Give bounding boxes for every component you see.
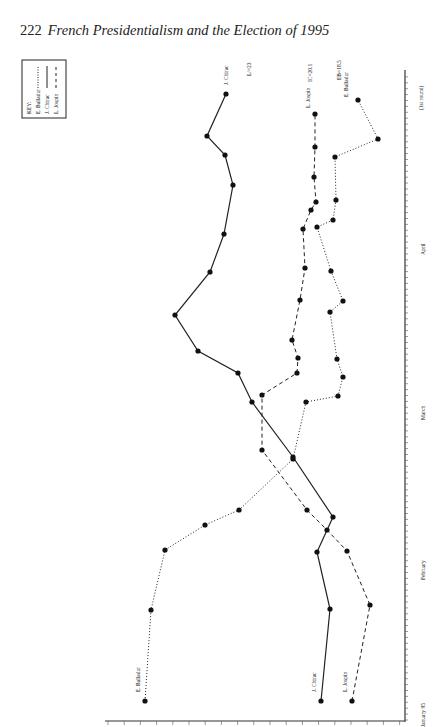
data-point	[259, 447, 264, 452]
chirac-result: L/=23	[246, 62, 252, 76]
jospin-result: IC=20.1	[307, 64, 313, 82]
data-point	[312, 144, 317, 149]
data-point	[148, 607, 153, 612]
data-point	[328, 268, 333, 273]
data-point	[333, 197, 338, 202]
data-point	[295, 355, 300, 360]
data-point	[312, 111, 317, 116]
data-point	[259, 392, 264, 397]
data-point	[236, 507, 241, 512]
data-point	[235, 370, 240, 375]
data-point	[222, 152, 227, 157]
data-point	[349, 698, 354, 703]
series-lines	[142, 91, 380, 703]
month-april: April	[420, 243, 426, 255]
jospin-end-label: L. Jospin	[305, 88, 311, 108]
data-point	[327, 606, 332, 611]
data-point	[334, 356, 339, 361]
legend: KEY: E. Balladur J. Chirac L. Jospin	[22, 60, 66, 118]
data-point	[355, 97, 360, 102]
data-point	[294, 370, 299, 375]
series-j-chirac	[175, 94, 333, 701]
data-point	[172, 312, 177, 317]
data-point	[308, 207, 313, 212]
chirac-end-label: J. Chirac	[223, 65, 229, 85]
data-point	[314, 549, 319, 554]
data-point	[303, 399, 308, 404]
data-point	[332, 154, 337, 159]
legend-chirac: J. Chirac	[44, 94, 50, 114]
data-point	[340, 374, 345, 379]
balladur-start-label: E. Balladur	[135, 667, 141, 692]
data-point	[300, 226, 305, 231]
data-point	[313, 199, 318, 204]
data-point	[340, 298, 345, 303]
data-point	[314, 224, 319, 229]
data-point	[195, 348, 200, 353]
data-point	[221, 231, 226, 236]
data-point	[318, 698, 323, 703]
data-point	[324, 527, 329, 532]
data-point	[375, 136, 380, 141]
legend-jospin: L. Jospin	[53, 94, 59, 114]
data-point	[330, 514, 335, 519]
data-point	[327, 309, 332, 314]
data-point	[367, 602, 372, 607]
jospin-start-label: L. Jospin	[342, 672, 348, 692]
data-point	[297, 297, 302, 302]
data-point	[223, 91, 228, 96]
data-point	[290, 456, 295, 461]
data-point	[311, 174, 316, 179]
chart: KEY: E. Balladur J. Chirac L. Jospin Mar…	[0, 0, 440, 727]
legend-balladur: E. Balladur	[35, 89, 41, 114]
balladur-end-label: E. Balladur	[343, 72, 349, 97]
value-axis	[105, 721, 405, 725]
data-point	[202, 522, 207, 527]
month-january: January 95	[420, 703, 426, 727]
legend-title: KEY:	[26, 101, 32, 114]
data-point	[330, 217, 335, 222]
data-point	[204, 133, 209, 138]
round-label: (1st round)	[418, 86, 425, 110]
data-point	[230, 182, 235, 187]
data-point	[289, 337, 294, 342]
month-march: March	[420, 405, 426, 420]
data-point	[302, 265, 307, 270]
data-point	[162, 547, 167, 552]
data-point	[207, 269, 212, 274]
balladur-result: EB=18.5	[336, 60, 342, 80]
data-point	[249, 399, 254, 404]
data-point	[335, 393, 340, 398]
date-axis: March February April January 95 (1st rou…	[405, 70, 426, 727]
month-february: February	[420, 560, 426, 580]
data-point	[142, 698, 147, 703]
chirac-start-label: J. Chirac	[311, 672, 317, 692]
data-point	[304, 507, 309, 512]
data-point	[344, 548, 349, 553]
